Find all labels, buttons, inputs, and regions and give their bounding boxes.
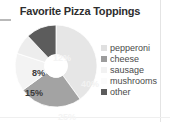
legend-item-label: mushrooms: [110, 76, 157, 87]
legend-swatch-icon: [101, 45, 107, 51]
legend-swatch-icon: [101, 56, 107, 62]
slice-value-label-other: 12%: [53, 54, 71, 63]
edge-rule-artifact: [0, 19, 11, 21]
legend-item-label: cheese: [110, 54, 139, 65]
legend-item-pepperoni[interactable]: pepperoni: [101, 43, 163, 54]
legend-item-label: pepperoni: [110, 43, 150, 54]
slice-value-label-mushrooms: 8%: [32, 69, 45, 78]
legend-item-label: other: [110, 87, 131, 98]
slice-value-label-pepperoni: 40%: [81, 80, 99, 89]
donut-chart-plot: 40% 25% 15% 8% 12%: [15, 25, 97, 107]
pie-chart-figure: Favorite Pizza Toppings 40% 25% 15% 8% 1…: [0, 0, 170, 122]
legend-item-other[interactable]: other: [101, 87, 163, 98]
legend-item-cheese[interactable]: cheese: [101, 54, 163, 65]
figure-bottom-border: [0, 117, 170, 118]
legend-item-sausage[interactable]: sausage: [101, 65, 163, 76]
chart-legend: pepperoni cheese sausage mushrooms other: [101, 43, 163, 98]
slice-value-label-cheese: 25%: [58, 113, 76, 122]
slice-value-label-sausage: 15%: [25, 89, 43, 98]
legend-swatch-icon: [101, 67, 107, 73]
legend-swatch-icon: [101, 78, 107, 84]
legend-item-label: sausage: [110, 65, 144, 76]
legend-item-mushrooms[interactable]: mushrooms: [101, 76, 163, 87]
legend-swatch-icon: [101, 89, 107, 95]
chart-title: Favorite Pizza Toppings: [0, 5, 160, 17]
